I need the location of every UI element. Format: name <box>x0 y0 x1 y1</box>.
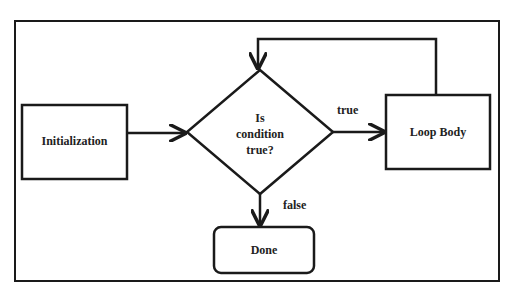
init-label: Initialization <box>22 133 127 149</box>
true-edge-label: true <box>337 103 358 118</box>
condition-label-line-1: Is <box>215 110 305 126</box>
condition-label: Is condition true? <box>215 110 305 158</box>
condition-label-line-2: condition <box>215 126 305 142</box>
loop-body-label: Loop Body <box>386 124 490 140</box>
false-edge-label: false <box>283 198 306 213</box>
edge-loop-back <box>258 39 436 95</box>
condition-label-line-3: true? <box>215 142 305 158</box>
done-label: Done <box>214 242 314 258</box>
